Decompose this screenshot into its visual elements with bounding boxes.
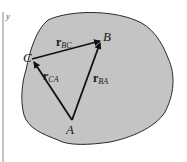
point-c-label: C: [23, 51, 32, 64]
point-a-label: A: [66, 123, 74, 136]
vector-r-ba-label: rBA: [93, 72, 108, 86]
y-axis-label: y: [6, 12, 10, 21]
vector-r-bc-label: rBC: [56, 36, 72, 50]
vector-r-ca-label: rCA: [43, 70, 59, 84]
point-b-label: B: [103, 30, 111, 43]
